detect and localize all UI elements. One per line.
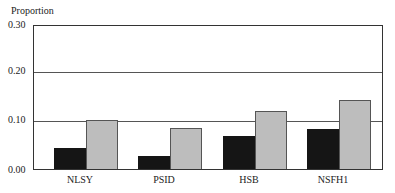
y-tick-030: 0.30 bbox=[8, 19, 30, 30]
x-category-nsfh1: NSFH1 bbox=[303, 174, 363, 185]
y-tick-010: 0.10 bbox=[8, 114, 30, 125]
x-category-psid: PSID bbox=[134, 174, 194, 185]
bar-nlsy-series-1 bbox=[54, 148, 86, 169]
bar-nlsy-series-2 bbox=[86, 120, 118, 169]
bar-hsb-series-2 bbox=[255, 111, 287, 169]
gridline-020 bbox=[34, 72, 382, 73]
x-category-nlsy: NLSY bbox=[50, 174, 110, 185]
bar-psid-series-1 bbox=[138, 156, 170, 169]
y-tick-000: 0.00 bbox=[8, 164, 30, 175]
y-axis-label: Proportion bbox=[11, 5, 54, 16]
y-tick-020: 0.20 bbox=[8, 65, 30, 76]
bar-nsfh1-series-1 bbox=[307, 129, 339, 169]
bar-nsfh1-series-2 bbox=[339, 100, 371, 169]
bar-hsb-series-1 bbox=[223, 136, 255, 169]
bar-psid-series-2 bbox=[170, 128, 202, 169]
x-category-hsb: HSB bbox=[219, 174, 279, 185]
plot-area bbox=[33, 25, 383, 170]
